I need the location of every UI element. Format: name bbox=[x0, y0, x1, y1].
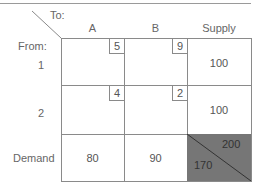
column-header-supply: Supply bbox=[187, 22, 251, 34]
row-label-demand: Demand bbox=[13, 152, 55, 164]
to-label: To: bbox=[50, 9, 65, 21]
cost-box-1-b: 9 bbox=[172, 39, 187, 54]
column-header-b: B bbox=[124, 22, 187, 34]
top-rule bbox=[0, 3, 251, 4]
totals-cell bbox=[187, 134, 251, 181]
grid-line bbox=[61, 85, 251, 86]
from-label: From: bbox=[18, 40, 47, 52]
cost-box-1-a: 5 bbox=[109, 39, 124, 54]
total-demand: 170 bbox=[194, 159, 212, 171]
row-label-1: 1 bbox=[38, 59, 44, 71]
row-label-2: 2 bbox=[38, 107, 44, 119]
supply-1: 100 bbox=[187, 57, 251, 69]
grid-line bbox=[61, 38, 251, 39]
grid-line bbox=[61, 181, 251, 182]
totals-diagonal bbox=[187, 134, 251, 181]
grid-line bbox=[251, 38, 252, 182]
column-header-a: A bbox=[61, 22, 124, 34]
cost-box-2-b: 2 bbox=[172, 86, 187, 101]
demand-b: 90 bbox=[124, 152, 187, 164]
demand-a: 80 bbox=[61, 152, 124, 164]
total-supply: 200 bbox=[222, 138, 240, 150]
cost-box-2-a: 4 bbox=[109, 86, 124, 101]
supply-2: 100 bbox=[187, 104, 251, 116]
